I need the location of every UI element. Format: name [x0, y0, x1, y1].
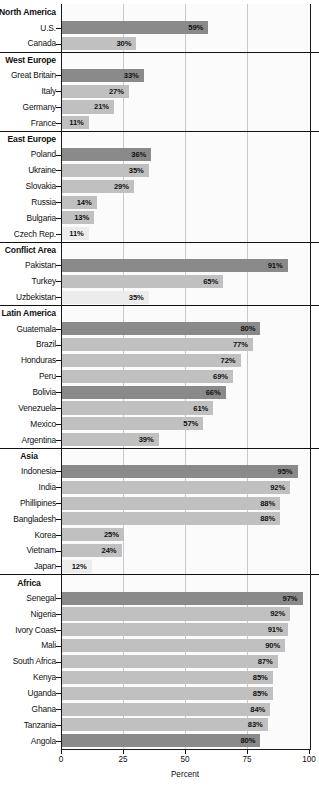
bar-row-label: Senegal — [0, 590, 56, 606]
bar-row-label: India — [0, 479, 56, 495]
bar — [62, 401, 213, 414]
bar-track: 14% — [61, 194, 310, 210]
bar-track: 35% — [61, 162, 310, 178]
bar-row: Mexico57% — [0, 416, 319, 432]
bar-value-label: 84% — [250, 701, 265, 717]
bar-row-label: Italy — [0, 83, 56, 99]
bar-row: India92% — [0, 479, 319, 495]
bar-row: Great Britain33% — [0, 67, 319, 83]
bar-row-label: Poland — [0, 147, 56, 163]
bar-value-label: 36% — [131, 147, 146, 163]
x-axis-tick-label: 50 — [180, 755, 189, 764]
bar — [62, 687, 273, 700]
bar-value-label: 11% — [69, 226, 83, 242]
bar-row: Czech Rep.11% — [0, 226, 319, 242]
bar-row: Honduras72% — [0, 353, 319, 369]
bar-value-label: 24% — [102, 543, 117, 559]
bar-track: 97% — [61, 590, 310, 606]
x-axis-title: Percent — [61, 770, 309, 779]
bar-value-label: 66% — [206, 384, 221, 400]
bar-track: 84% — [61, 701, 310, 717]
bar-row: South Africa87% — [0, 654, 319, 670]
bar-row-label: Germany — [0, 99, 56, 115]
bar — [62, 623, 288, 636]
group-header-row: East Europe — [0, 131, 319, 147]
bar-track: 65% — [61, 273, 310, 289]
bar-row-label: Czech Rep. — [0, 226, 56, 242]
bar-value-label: 80% — [240, 321, 255, 337]
bar-row-label: Indonesia — [0, 463, 56, 479]
bar-value-label: 92% — [270, 606, 285, 622]
bar-track: 36% — [61, 147, 310, 163]
bar-row-label: France — [0, 115, 56, 131]
bar-row: Indonesia95% — [0, 463, 319, 479]
group-header-track — [61, 306, 310, 321]
bar-track: 95% — [61, 463, 310, 479]
bar — [62, 481, 290, 494]
bar-value-label: 29% — [114, 178, 129, 194]
bar-track: 29% — [61, 178, 310, 194]
bar-track: 12% — [61, 559, 310, 575]
bar-value-label: 90% — [265, 638, 280, 654]
bar-value-label: 80% — [240, 733, 255, 749]
group-header-track — [61, 243, 310, 258]
bar-value-label: 35% — [129, 289, 144, 305]
bar-row-label: Argentina — [0, 432, 56, 448]
bar — [62, 497, 280, 510]
bar-value-label: 14% — [77, 194, 92, 210]
group-header-label: West Europe — [0, 53, 56, 68]
bar-row: Russia14% — [0, 194, 319, 210]
bar-track: 33% — [61, 67, 310, 83]
x-axis-tick-label: 75 — [242, 755, 251, 764]
bar — [62, 465, 298, 478]
bar-track: 21% — [61, 99, 310, 115]
bar-value-label: 25% — [104, 527, 119, 543]
bar-row: France11% — [0, 115, 319, 131]
x-axis-tick — [123, 750, 124, 754]
bar-row-label: Mali — [0, 638, 56, 654]
bar — [62, 370, 233, 383]
group-header-row: Latin America — [0, 305, 319, 321]
bar-row: Uzbekistan35% — [0, 289, 319, 305]
x-axis-tick — [185, 750, 186, 754]
bar-value-label: 61% — [193, 400, 208, 416]
bar-row: Kenya85% — [0, 669, 319, 685]
x-axis-tick — [309, 750, 310, 754]
bar-row: Tanzania83% — [0, 717, 319, 733]
bar — [62, 386, 226, 399]
bar-value-label: 91% — [268, 258, 283, 274]
bar-row: Bulgaria13% — [0, 210, 319, 226]
bar-row-label: Russia — [0, 194, 56, 210]
x-axis-tick-label: 0 — [59, 755, 64, 764]
bar-row: Venezuela61% — [0, 400, 319, 416]
bar-track: 83% — [61, 717, 310, 733]
group-header-label: North America — [0, 4, 56, 20]
bar-row-label: Honduras — [0, 353, 56, 369]
x-axis-tick — [247, 750, 248, 754]
x-axis-tick-label: 100 — [302, 755, 316, 764]
x-axis: 0255075100 — [61, 750, 309, 768]
bar-row-label: Vietnam — [0, 543, 56, 559]
bar — [62, 275, 223, 288]
bar — [62, 354, 241, 367]
bar-track: 59% — [61, 20, 310, 36]
bar — [62, 592, 303, 605]
bar-track: 80% — [61, 733, 310, 749]
bar-track: 92% — [61, 479, 310, 495]
group-header-row: North America — [0, 4, 319, 20]
bar-track: 90% — [61, 638, 310, 654]
bar-row: Brazil77% — [0, 337, 319, 353]
bar-value-label: 30% — [116, 36, 131, 52]
bar-row-label: Peru — [0, 368, 56, 384]
bar-row: Bangladesh88% — [0, 511, 319, 527]
bar-row-label: Pakistan — [0, 258, 56, 274]
bar-track: 72% — [61, 353, 310, 369]
bar-row-label: Uzbekistan — [0, 289, 56, 305]
bar-row: Bolivia66% — [0, 384, 319, 400]
group-header-label: Conflict Area — [0, 243, 56, 258]
group-header-row: Africa — [0, 574, 319, 590]
bar-track: 57% — [61, 416, 310, 432]
bar-track: 92% — [61, 606, 310, 622]
bar-row-label: Venezuela — [0, 400, 56, 416]
bar-row-label: Kenya — [0, 669, 56, 685]
